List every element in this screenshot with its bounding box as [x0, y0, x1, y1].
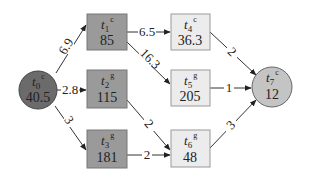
node-value: 12: [265, 87, 279, 102]
node-t6: t6g 48: [171, 130, 210, 167]
edge-label: 6.5: [139, 24, 155, 39]
node-value: 181: [97, 150, 118, 165]
node-t3: t3g 181: [87, 130, 127, 168]
node-t1: t1c 85: [87, 14, 127, 50]
node-value: 115: [97, 90, 117, 105]
node-t2: t2g 115: [87, 70, 127, 108]
edge-t0-t2: 2.8: [57, 82, 86, 97]
node-value: 40.5: [26, 90, 51, 105]
node-value: 36.3: [178, 33, 203, 48]
edge-t1-t4: 6.5: [127, 24, 170, 39]
node-value: 48: [183, 150, 197, 165]
edge-t4-t7: 2: [210, 32, 256, 75]
node-t5: t5g 205: [171, 70, 210, 106]
node-t7: t7c 12: [252, 67, 292, 107]
node-t4: t4c 36.3: [171, 14, 210, 50]
edge-t2-t6: 2: [127, 100, 170, 150]
edge-label: 1: [226, 80, 233, 95]
edge-t1-t5: 16.3: [127, 42, 170, 84]
edge-t0-t3: 3: [55, 106, 86, 150]
node-t0: t0c 40.5: [19, 71, 57, 109]
edge-label: 2: [144, 147, 151, 162]
node-value: 205: [180, 89, 201, 104]
edge-label: 2.8: [62, 82, 78, 97]
node-value: 85: [100, 33, 114, 48]
task-graph: 6.9 2.8 3 6.5 16.3 2 2 2 1: [0, 0, 309, 176]
edge-t6-t7: 3: [210, 100, 256, 148]
edge-label: 16.3: [137, 45, 164, 72]
edge-t0-t1: 6.9: [55, 25, 86, 73]
edge-t3-t6: 2: [127, 147, 170, 162]
edge-t5-t7: 1: [210, 80, 251, 95]
